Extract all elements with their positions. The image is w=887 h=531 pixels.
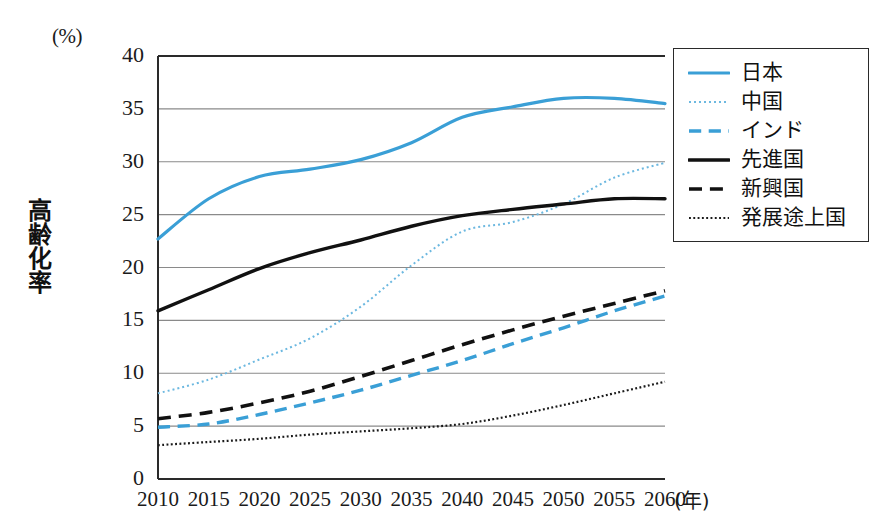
series-line (158, 291, 665, 419)
legend-item-label: 発展途上国 (741, 207, 846, 228)
chart-container: (%) 高齢化率 0510152025303540 20102015202020… (0, 0, 887, 531)
legend-item-3[interactable]: インド (674, 116, 868, 145)
legend-item-6[interactable]: 発展途上国 (674, 203, 868, 232)
legend-item-1[interactable]: 日本 (674, 58, 868, 87)
legend-item-label: 中国 (741, 91, 783, 112)
legend-item-4[interactable]: 先進国 (674, 145, 868, 174)
legend-item-2[interactable]: 中国 (674, 87, 868, 116)
chart-legend: 日本中国インド先進国新興国発展途上国 (673, 48, 869, 242)
legend-line-icon (688, 182, 730, 196)
legend-item-label: インド (741, 120, 804, 141)
series-line (158, 97, 665, 239)
series-line (158, 382, 665, 445)
legend-line-icon (688, 153, 730, 167)
legend-line-icon (688, 124, 730, 138)
legend-item-label: 日本 (741, 62, 783, 83)
series-line (158, 198, 665, 310)
legend-item-5[interactable]: 新興国 (674, 174, 868, 203)
legend-line-icon (688, 66, 730, 80)
legend-line-icon (688, 211, 730, 225)
legend-item-label: 先進国 (741, 149, 804, 170)
legend-line-icon (688, 95, 730, 109)
legend-item-label: 新興国 (741, 178, 804, 199)
